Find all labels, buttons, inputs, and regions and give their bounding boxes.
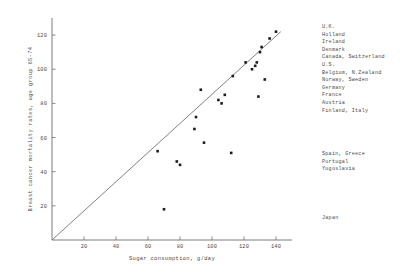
- data-points-group: [156, 30, 277, 210]
- annotation-country-high: Ireland: [322, 39, 345, 45]
- data-point: [244, 61, 247, 64]
- x-tick-label: 20: [81, 244, 88, 250]
- y-tick-label: 80: [40, 101, 47, 107]
- annotation-country-high: Finland, Italy: [322, 108, 368, 114]
- x-tick-label: 120: [239, 244, 249, 250]
- y-axis-title: Breast cancer mortality rates, age group…: [28, 47, 34, 212]
- chart-canvas: 20406080100120140 20406080100120 Sugar c…: [0, 0, 409, 274]
- annotation-country-high: Holland: [322, 32, 345, 38]
- annotation-country-high: Norway, Sweden: [322, 77, 368, 83]
- data-point: [230, 152, 233, 155]
- data-point: [264, 78, 267, 81]
- annotation-country-high: Austria: [322, 100, 345, 106]
- data-point: [254, 65, 257, 68]
- data-point: [260, 46, 263, 49]
- scatter-plot-figure: 20406080100120140 20406080100120 Sugar c…: [0, 0, 409, 274]
- annotation-country-mid: Spain, Greece: [322, 151, 365, 157]
- y-tick-label: 40: [40, 170, 47, 176]
- data-point: [224, 94, 227, 97]
- annotation-country-high: U.S.: [322, 62, 335, 68]
- axis-titles-group: Sugar consumption, g/day Breast cancer m…: [28, 47, 215, 262]
- x-tick-label: 80: [177, 244, 184, 250]
- annotation-country-high: Denmark: [322, 47, 345, 53]
- data-point: [200, 88, 203, 91]
- x-tick-label: 100: [207, 244, 217, 250]
- data-point: [176, 160, 179, 163]
- data-point: [259, 51, 262, 54]
- y-tick-label: 100: [37, 67, 47, 73]
- data-point: [193, 128, 196, 131]
- data-point: [220, 102, 223, 105]
- annotation-country-mid: Portugal: [322, 159, 348, 165]
- annotation-country-low: Japan: [322, 215, 339, 221]
- y-tick-group: 20406080100120: [37, 33, 56, 210]
- data-point: [232, 75, 235, 78]
- annotation-country-high: U.K.: [322, 24, 335, 30]
- annotation-group: U.K.HollandIrelandDenmarkCanada, Switzer…: [322, 24, 385, 221]
- y-tick-label: 60: [40, 136, 47, 142]
- x-tick-label: 60: [145, 244, 152, 250]
- x-tick-group: 20406080100120140: [81, 237, 281, 251]
- annotation-country-high: France: [322, 92, 342, 98]
- data-point: [251, 68, 254, 71]
- data-point: [203, 141, 206, 144]
- annotation-country-high: Belgium, N.Zealand: [322, 70, 382, 76]
- annotation-country-high: Germany: [322, 85, 345, 91]
- annotation-country-high: Canada, Switzerland: [322, 54, 385, 60]
- x-axis-title: Sugar consumption, g/day: [129, 256, 215, 262]
- data-point: [163, 208, 166, 211]
- data-point: [156, 150, 159, 153]
- y-tick-label: 20: [40, 204, 47, 210]
- data-point: [256, 61, 259, 64]
- data-point: [257, 95, 260, 98]
- data-point: [275, 30, 278, 33]
- data-point: [179, 164, 182, 167]
- annotation-country-mid: Yugoslavia: [322, 166, 355, 172]
- data-point: [217, 99, 220, 102]
- y-tick-label: 120: [37, 33, 47, 39]
- data-point: [268, 37, 271, 40]
- data-point: [195, 116, 198, 119]
- x-tick-label: 140: [271, 244, 281, 250]
- x-tick-label: 40: [113, 244, 120, 250]
